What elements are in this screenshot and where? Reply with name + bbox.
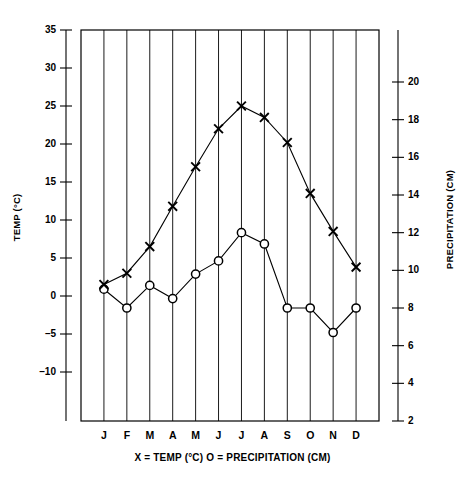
month-label-september: S — [277, 430, 297, 441]
month-label-june: J — [209, 430, 229, 441]
series-line-precipitation — [104, 233, 356, 333]
series-line-temperature — [104, 106, 356, 285]
left-tick-label: –5 — [22, 329, 56, 339]
month-label-march: M — [140, 430, 160, 441]
left-tick-label: 10 — [22, 215, 56, 225]
month-label-october: O — [300, 430, 320, 441]
right-tick-label: 18 — [408, 115, 442, 125]
marker-circle-icon — [283, 304, 291, 312]
data-point-precipitation — [306, 304, 314, 312]
marker-circle-icon — [237, 229, 245, 237]
marker-circle-icon — [306, 304, 314, 312]
right-axis-title: PRECIPITATION (CM) — [444, 150, 455, 290]
data-point-precipitation — [169, 294, 177, 302]
left-tick-label: 20 — [22, 139, 56, 149]
marker-circle-icon — [169, 294, 177, 302]
marker-circle-icon — [260, 240, 268, 248]
month-label-april: A — [163, 430, 183, 441]
marker-circle-icon — [146, 281, 154, 289]
climate-chart: TEMP (°C) PRECIPITATION (CM) 35302520151… — [0, 0, 465, 488]
right-tick-label: 4 — [408, 378, 442, 388]
data-point-precipitation — [283, 304, 291, 312]
month-label-february: F — [117, 430, 137, 441]
data-point-precipitation — [146, 281, 154, 289]
chart-legend-caption: X = TEMP (°C) O = PRECIPITATION (CM) — [0, 452, 465, 463]
right-tick-label: 14 — [408, 190, 442, 200]
data-point-precipitation — [352, 304, 360, 312]
right-tick-label: 10 — [408, 265, 442, 275]
month-label-july: J — [231, 430, 251, 441]
marker-circle-icon — [192, 270, 200, 278]
month-label-may: M — [186, 430, 206, 441]
marker-circle-icon — [214, 257, 222, 265]
marker-circle-icon — [352, 304, 360, 312]
data-point-precipitation — [237, 229, 245, 237]
right-tick-label: 20 — [408, 77, 442, 87]
marker-circle-icon — [329, 328, 337, 336]
month-label-august: A — [254, 430, 274, 441]
right-tick-label: 2 — [408, 416, 442, 426]
data-point-precipitation — [192, 270, 200, 278]
chart-plot-area — [0, 0, 465, 488]
month-label-december: D — [346, 430, 366, 441]
left-tick-label: 35 — [22, 25, 56, 35]
left-tick-label: 0 — [22, 291, 56, 301]
right-tick-label: 8 — [408, 303, 442, 313]
data-point-precipitation — [329, 328, 337, 336]
left-axis-title: TEMP (°C) — [11, 168, 22, 268]
left-tick-label: 25 — [22, 101, 56, 111]
right-tick-label: 6 — [408, 341, 442, 351]
left-tick-label: 15 — [22, 177, 56, 187]
left-tick-label: –10 — [22, 367, 56, 377]
plot-frame — [81, 30, 379, 421]
month-label-january: J — [94, 430, 114, 441]
data-point-precipitation — [260, 240, 268, 248]
right-tick-label: 12 — [408, 228, 442, 238]
marker-circle-icon — [123, 304, 131, 312]
left-tick-label: 5 — [22, 253, 56, 263]
month-label-november: N — [323, 430, 343, 441]
data-point-precipitation — [123, 304, 131, 312]
left-tick-label: 30 — [22, 63, 56, 73]
data-point-precipitation — [214, 257, 222, 265]
right-tick-label: 16 — [408, 152, 442, 162]
